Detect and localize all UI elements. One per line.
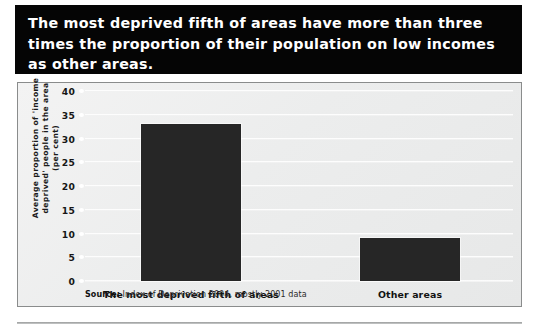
y-tick-label: 0: [68, 276, 75, 287]
y-tick-marker: [79, 137, 84, 141]
gridline: [85, 114, 513, 116]
y-tick-label: 35: [62, 109, 75, 120]
y-tick-label: 40: [62, 86, 75, 97]
y-tick-label: 30: [62, 133, 75, 144]
source-detail: Index of Deprivation 2004, mostly 2001 d…: [120, 290, 307, 299]
y-tick-marker: [79, 279, 84, 283]
bar: [360, 238, 460, 281]
y-tick-label: 5: [68, 252, 75, 263]
page-title: The most deprived fifth of areas have mo…: [28, 13, 509, 75]
y-tick-marker: [79, 160, 84, 164]
chart-panel: Average proportion of 'income deprived' …: [17, 82, 522, 307]
y-tick-marker: [79, 208, 84, 212]
y-tick-label: 10: [62, 228, 75, 239]
y-tick-label: 25: [62, 157, 75, 168]
y-tick-marker: [79, 89, 84, 93]
y-tick-label: 15: [62, 204, 75, 215]
y-tick-marker: [79, 113, 84, 117]
bar: [141, 124, 241, 281]
title-banner: The most deprived fifth of areas have mo…: [15, 5, 522, 74]
y-tick-marker: [79, 232, 84, 236]
source-note: Source: Index of Deprivation 2004, mostl…: [85, 290, 307, 299]
source-keyword: Source:: [85, 290, 120, 299]
bottom-divider: [17, 322, 522, 324]
x-axis-category-label: Other areas: [378, 289, 442, 300]
gridline: [85, 90, 513, 92]
plot-area: 0510152025303540The most deprived fifth …: [85, 91, 513, 281]
y-tick-label: 20: [62, 181, 75, 192]
y-tick-marker: [79, 255, 84, 259]
y-axis-title: Average proportion of 'income deprived' …: [31, 73, 61, 223]
y-tick-marker: [79, 184, 84, 188]
